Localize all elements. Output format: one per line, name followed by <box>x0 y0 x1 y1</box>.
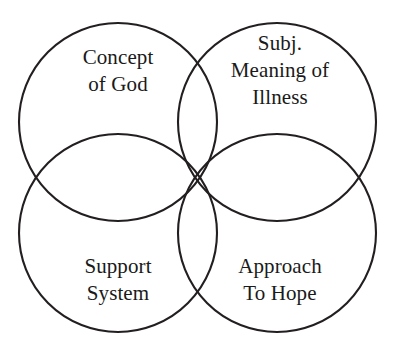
label-line: Meaning of <box>200 57 360 84</box>
label-line: To Hope <box>200 280 360 307</box>
label-line: Subj. <box>200 30 360 57</box>
label-subj-meaning-of-illness: Subj. Meaning of Illness <box>200 30 360 111</box>
label-line: Approach <box>200 253 360 280</box>
label-line: Illness <box>200 84 360 111</box>
label-line: Concept <box>38 44 198 71</box>
label-line: of God <box>38 71 198 98</box>
label-line: System <box>38 280 198 307</box>
venn-diagram: Concept of God Subj. Meaning of Illness … <box>0 0 400 357</box>
label-concept-of-god: Concept of God <box>38 44 198 98</box>
label-approach-to-hope: Approach To Hope <box>200 253 360 307</box>
label-line: Support <box>38 253 198 280</box>
label-support-system: Support System <box>38 253 198 307</box>
